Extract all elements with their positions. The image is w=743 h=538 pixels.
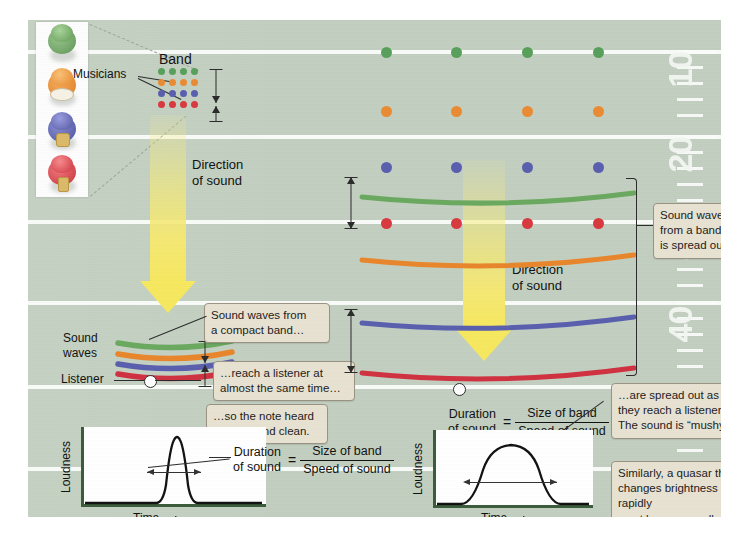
band-dot xyxy=(191,90,198,97)
compact-graph-xlabel: Time xyxy=(133,511,159,517)
band-dot xyxy=(169,79,176,86)
pulse-width-arrow xyxy=(147,472,201,473)
callout-spread-out: Sound waves from a band that is spread o… xyxy=(653,203,721,259)
musician-red xyxy=(36,153,88,197)
listener-leader-line xyxy=(114,380,144,381)
band-label: Band xyxy=(159,51,192,69)
pulse-width-arrow-right xyxy=(194,469,201,475)
spread-plateau-curve xyxy=(433,430,593,508)
musician-plume xyxy=(51,155,73,173)
band-dot xyxy=(451,106,462,117)
band-dot xyxy=(191,68,198,75)
measure-arrow-down xyxy=(347,222,355,229)
musician-plume xyxy=(51,24,73,42)
measure-arrow-down xyxy=(212,96,220,103)
spread-wavefronts-brace xyxy=(626,178,637,376)
spread-wavefronts-brace-pointer xyxy=(636,225,654,226)
measure-arrow-down xyxy=(347,366,355,373)
listener-label: Listener xyxy=(61,372,104,387)
band-dot xyxy=(180,101,187,108)
equation-numerator: Size of band xyxy=(515,406,609,422)
band-dot xyxy=(593,47,604,58)
musician-plume xyxy=(51,68,73,86)
sound-waves-label: Sound waves xyxy=(63,331,98,361)
band-dot xyxy=(381,162,392,173)
pulse-width-arrow-right xyxy=(550,479,557,485)
hash-mark xyxy=(677,199,703,202)
musician-instrument xyxy=(50,88,74,101)
hash-mark xyxy=(677,284,703,287)
hash-mark xyxy=(677,365,703,368)
band-dot xyxy=(381,47,392,58)
listener-dot-left xyxy=(144,375,157,388)
hash-mark xyxy=(677,349,703,352)
equation-lhs-line2: of sound xyxy=(233,460,281,474)
yard-line xyxy=(28,50,721,54)
band-dot xyxy=(381,106,392,117)
callout-compact-waves: Sound waves from a compact band… xyxy=(204,303,330,343)
figure-canvas: 10 20 30 40 xyxy=(0,0,743,538)
measure-arrow-up xyxy=(347,309,355,316)
callout-quasar: Similarly, a quasar that changes brightn… xyxy=(611,461,721,517)
spread-wavefronts xyxy=(358,175,638,375)
direction-of-sound-arrow-left xyxy=(150,115,186,315)
band-dot xyxy=(158,79,165,86)
equation-equals: = xyxy=(284,444,300,477)
spread-band-size-measure-top xyxy=(344,177,358,229)
direction-of-sound-label-left: Direction of sound xyxy=(192,157,243,190)
yard-number-10: 10 xyxy=(662,52,701,88)
band-dot xyxy=(169,101,176,108)
hash-mark xyxy=(677,183,703,186)
band-dot xyxy=(451,47,462,58)
football-field: 10 20 30 40 xyxy=(28,20,721,517)
hash-mark xyxy=(677,98,703,101)
measure-arrow-up xyxy=(201,365,209,372)
spread-graph-xlabel: Time xyxy=(481,511,507,517)
band-dot xyxy=(593,106,604,117)
spread-band-loudness-graph xyxy=(433,430,593,508)
hash-mark xyxy=(677,301,717,305)
yard-line xyxy=(28,135,721,139)
equation-lhs-line1: Duration xyxy=(449,407,496,421)
musician-instrument xyxy=(58,177,69,192)
compact-graph-ylabel: Loudness xyxy=(59,441,73,493)
band-dot xyxy=(180,79,187,86)
compact-listener-measure xyxy=(198,365,212,387)
listener-leader-line-right xyxy=(155,380,201,381)
musician-instrument xyxy=(56,133,70,147)
callout-mushy: …are spread out as they reach a listener… xyxy=(611,383,721,439)
hash-mark xyxy=(677,449,703,452)
musician-plume xyxy=(51,112,73,130)
spread-graph-ylabel: Loudness xyxy=(411,443,425,495)
band-dot xyxy=(593,162,604,173)
spread-band-size-measure-bottom xyxy=(344,309,358,373)
pulse-width-arrow xyxy=(465,482,557,483)
musician-green xyxy=(36,22,88,66)
equation-numerator: Size of band xyxy=(300,444,394,460)
band-dot xyxy=(522,106,533,117)
compact-band-size-measure-2 xyxy=(209,106,223,122)
band-dot xyxy=(191,101,198,108)
compact-band-size-measure xyxy=(209,69,223,103)
yard-number-40: 40 xyxy=(662,307,701,343)
yard-number-20: 20 xyxy=(662,137,701,173)
measure-arrow-down xyxy=(201,356,209,363)
hash-mark xyxy=(677,114,703,117)
duration-equation-left: Duration of sound = Size of band Speed o… xyxy=(230,444,394,477)
musicians-label: Musicians xyxy=(73,67,126,82)
band-dot xyxy=(451,162,462,173)
measure-arrow-up xyxy=(212,106,220,113)
band-dot xyxy=(180,68,187,75)
hash-mark xyxy=(677,268,703,271)
band-dot xyxy=(169,68,176,75)
equation-denominator: Speed of sound xyxy=(300,460,394,476)
band-dot xyxy=(191,79,198,86)
band-dot xyxy=(522,47,533,58)
band-dot xyxy=(158,68,165,75)
musician-blue xyxy=(36,110,88,154)
pulse-width-arrow-left xyxy=(147,469,154,475)
compact-wave-spread-measure xyxy=(198,341,212,363)
musician-photo-strip xyxy=(36,22,88,197)
band-dot xyxy=(169,90,176,97)
equation-lhs-line1: Duration xyxy=(234,445,281,459)
